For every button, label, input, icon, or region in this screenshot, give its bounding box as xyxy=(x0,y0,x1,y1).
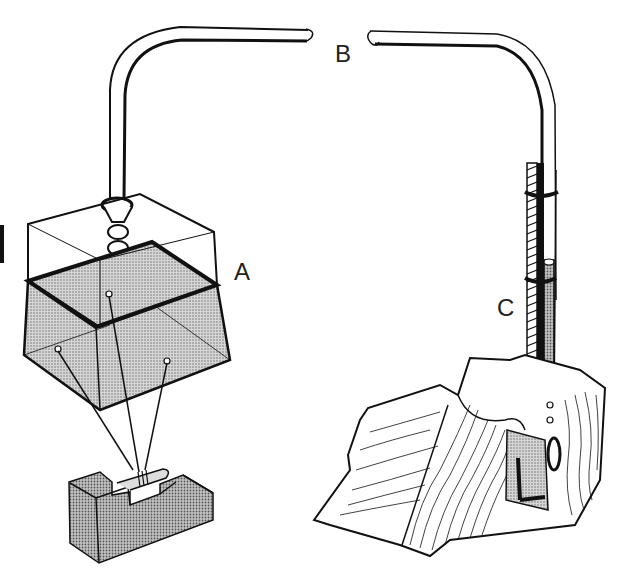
notched-block xyxy=(69,469,213,563)
container-a xyxy=(24,194,230,410)
label-a: A xyxy=(234,260,250,284)
label-b: B xyxy=(335,42,351,66)
tube-left xyxy=(110,27,313,200)
diagram-canvas xyxy=(0,0,619,576)
wooden-stump xyxy=(314,355,605,556)
label-c: C xyxy=(497,296,514,320)
